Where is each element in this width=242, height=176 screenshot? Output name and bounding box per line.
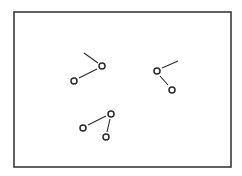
atom-circle [80, 125, 86, 131]
bond-line [162, 61, 178, 68]
atom-circle [169, 87, 175, 93]
atom-circle [103, 134, 109, 140]
bond-line [84, 53, 98, 63]
bond-line [107, 119, 110, 132]
bond-line [160, 76, 168, 85]
molecule-clusters [71, 53, 178, 140]
bond-line [88, 116, 106, 125]
bond-line [79, 69, 97, 78]
atom-circle [154, 68, 160, 74]
cluster-bottom [80, 111, 114, 140]
cluster-top-left [71, 53, 105, 84]
diagram-canvas [0, 0, 242, 176]
atom-circle [99, 63, 105, 69]
cluster-right [154, 61, 178, 93]
atom-circle [108, 111, 114, 117]
frame-border [14, 12, 231, 167]
atom-circle [71, 78, 77, 84]
